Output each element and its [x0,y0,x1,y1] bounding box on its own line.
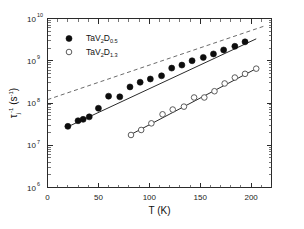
data-point [147,76,153,82]
data-point [242,39,248,45]
data-point [212,88,218,94]
data-point [138,127,144,133]
data-point [128,132,134,138]
x-tick-label: 150 [194,193,208,202]
figure-container: 1061071081091010050100150200TaV2D0.5TaV2… [0,0,304,229]
y-tick-exponent: 9 [37,54,40,60]
data-point [202,95,208,101]
data-point [159,73,165,79]
data-point [222,81,228,87]
data-point [200,54,206,60]
y-axis-title: τj-1 (s-1) [8,88,21,118]
data-point [191,95,197,101]
data-point [65,123,71,129]
legend-entry-label: TaV2D0.5 [86,33,118,44]
y-tick-label: 10 [27,15,36,24]
x-tick-label: 100 [143,193,157,202]
x-tick-label: 0 [45,193,50,202]
data-point [127,84,133,90]
data-point [160,112,166,118]
data-point [232,75,238,81]
legend-marker-filled [66,36,72,42]
data-point [210,51,216,57]
data-point [170,107,176,113]
data-point [86,114,92,120]
y-tick-label: 10 [27,184,36,193]
dashed-guide-line [48,26,264,99]
data-point [181,104,187,110]
data-point [232,43,238,49]
x-tick-label: 200 [244,193,258,202]
y-tick-exponent: 7 [37,139,40,145]
data-point [169,65,175,71]
data-point [137,79,143,85]
data-point [117,94,123,100]
y-tick-exponent: 6 [37,181,40,187]
data-point [149,121,155,127]
legend: TaV2D0.5TaV2D1.3 [66,33,118,58]
x-tick-label: 50 [94,193,103,202]
data-point [221,47,227,53]
data-point [253,66,259,72]
plot-frame [48,19,272,188]
data-point [95,105,101,111]
y-tick-label: 10 [27,141,36,150]
y-tick-label: 10 [27,57,36,66]
data-point [189,58,195,64]
y-tick-exponent: 10 [37,12,43,18]
data-point [179,62,185,68]
data-point [80,116,86,122]
data-point [242,71,248,77]
y-tick-label: 10 [27,99,36,108]
y-tick-exponent: 8 [37,97,40,103]
chart-canvas: 1061071081091010050100150200TaV2D0.5TaV2… [0,0,304,229]
data-point [106,93,112,99]
legend-entry-label: TaV2D1.3 [86,47,118,58]
x-axis-title: T (K) [148,205,170,216]
legend-marker-open [66,49,72,55]
